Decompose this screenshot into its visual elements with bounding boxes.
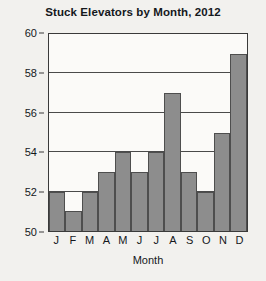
- bar-N-10[interactable]: [214, 133, 230, 232]
- y-axis: 505254565860: [0, 33, 44, 232]
- bar-F-1[interactable]: [65, 211, 81, 231]
- bar-chart-figure: Stuck Elevators by Month, 2012 505254565…: [0, 0, 266, 281]
- bar-A-3[interactable]: [98, 172, 114, 231]
- x-tick-label: J: [131, 234, 148, 246]
- y-tick-mark-58: [39, 72, 44, 73]
- x-axis-title: Month: [48, 254, 248, 266]
- x-tick-label: F: [65, 234, 82, 246]
- bar-M-2[interactable]: [82, 192, 98, 231]
- bar-J-0[interactable]: [49, 192, 65, 231]
- x-axis: JFMAMJJASOND: [48, 234, 248, 246]
- x-tick-label: N: [215, 234, 232, 246]
- y-tick-mark-52: [39, 192, 44, 193]
- x-tick-label: J: [148, 234, 165, 246]
- bar-J-5[interactable]: [131, 172, 147, 231]
- bar-slot: [148, 34, 164, 231]
- bar-slot: [181, 34, 197, 231]
- y-tick-label: 54: [25, 146, 37, 158]
- bar-slot: [49, 34, 65, 231]
- y-tick-mark-60: [39, 33, 44, 34]
- bar-slot: [131, 34, 147, 231]
- bar-D-11[interactable]: [230, 54, 246, 231]
- y-tick-mark-54: [39, 152, 44, 153]
- x-tick-label: D: [231, 234, 248, 246]
- bar-slot: [82, 34, 98, 231]
- bar-slot: [197, 34, 213, 231]
- x-tick-label: M: [81, 234, 98, 246]
- x-tick-label: O: [198, 234, 215, 246]
- bar-O-9[interactable]: [197, 192, 213, 231]
- y-tick-label: 60: [25, 27, 37, 39]
- bar-slot: [214, 34, 230, 231]
- bar-slot: [98, 34, 114, 231]
- bar-A-7[interactable]: [164, 93, 180, 231]
- y-tick-label: 50: [25, 226, 37, 238]
- bar-slot: [230, 34, 246, 231]
- bar-J-6[interactable]: [148, 152, 164, 231]
- bar-series: [49, 34, 247, 231]
- bar-S-8[interactable]: [181, 172, 197, 231]
- bar-slot: [65, 34, 81, 231]
- y-tick-mark-50: [39, 232, 44, 233]
- y-tick-label: 56: [25, 107, 37, 119]
- bar-slot: [164, 34, 180, 231]
- chart-title: Stuck Elevators by Month, 2012: [0, 6, 266, 18]
- y-tick-label: 58: [25, 67, 37, 79]
- x-tick-label: S: [181, 234, 198, 246]
- x-tick-label: J: [48, 234, 65, 246]
- y-tick-label: 52: [25, 186, 37, 198]
- bar-M-4[interactable]: [115, 152, 131, 231]
- x-tick-label: A: [98, 234, 115, 246]
- x-tick-label: A: [165, 234, 182, 246]
- plot-area: [48, 33, 248, 232]
- y-tick-mark-56: [39, 112, 44, 113]
- bar-slot: [115, 34, 131, 231]
- x-tick-label: M: [115, 234, 132, 246]
